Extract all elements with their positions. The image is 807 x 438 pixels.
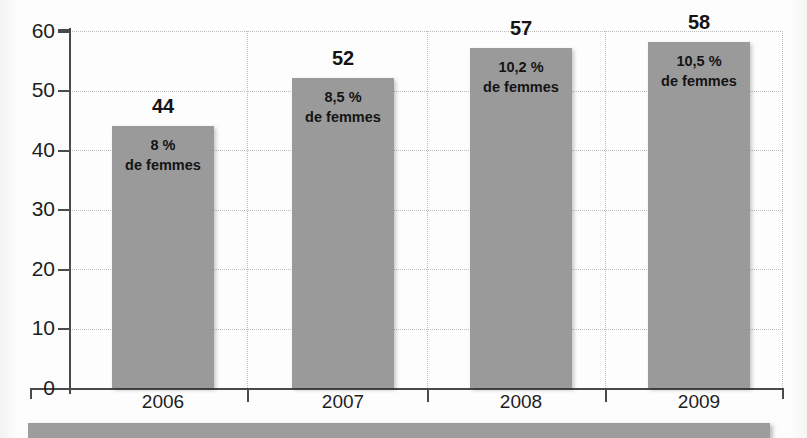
- y-tick-label-60: 60: [9, 20, 55, 41]
- bar-value-2006: 44: [112, 96, 214, 116]
- bar-inner-label-2009: 10,5 % de femmes: [642, 52, 756, 91]
- category-label-2008: 2008: [470, 392, 572, 413]
- y-tick-30: [58, 209, 70, 211]
- x-tick-3: [605, 388, 607, 402]
- bar-inner-label-2006: 8 % de femmes: [106, 136, 220, 175]
- x-axis-right-cap: [782, 388, 784, 399]
- paper-edge-left: [0, 0, 18, 438]
- bar-caption-2009: de femmes: [642, 72, 756, 92]
- gridline-vertical-4: [782, 31, 783, 388]
- y-tick-label-50: 50: [9, 79, 55, 100]
- bar-value-2009: 58: [648, 12, 750, 32]
- gridline-vertical-3: [605, 31, 606, 388]
- bar-caption-2006: de femmes: [106, 156, 220, 176]
- y-tick-20: [58, 269, 70, 271]
- category-label-2007: 2007: [292, 392, 394, 413]
- bar-value-2007: 52: [292, 48, 394, 68]
- y-tick-60: [58, 31, 70, 33]
- bar-percent-2007: 8,5 %: [286, 88, 400, 108]
- y-axis-line: [69, 28, 71, 394]
- bar-percent-2008: 10,2 %: [464, 58, 578, 78]
- y-tick-50: [58, 90, 70, 92]
- gridline-vertical-1: [247, 31, 248, 388]
- y-tick-10: [58, 328, 70, 330]
- y-tick-label-30: 30: [9, 198, 55, 219]
- x-axis-line: [30, 388, 784, 390]
- bar-percent-2006: 8 %: [106, 136, 220, 156]
- bar-value-2008: 57: [470, 18, 572, 38]
- y-tick-0: [58, 388, 70, 390]
- x-tick-2: [427, 388, 429, 402]
- category-label-2009: 2009: [648, 392, 750, 413]
- bar-percent-2009: 10,5 %: [642, 52, 756, 72]
- bar-caption-2007: de femmes: [286, 108, 400, 128]
- gridline-vertical-2: [427, 31, 428, 388]
- category-label-2006: 2006: [112, 392, 214, 413]
- x-tick-1: [247, 388, 249, 402]
- bar-2008: [470, 48, 572, 388]
- y-tick-label-10: 10: [9, 317, 55, 338]
- bar-inner-label-2007: 8,5 % de femmes: [286, 88, 400, 127]
- bar-2009: [648, 42, 750, 388]
- footer-band: [28, 423, 770, 438]
- paper-edge-right: [789, 0, 807, 438]
- bar-inner-label-2008: 10,2 % de femmes: [464, 58, 578, 97]
- y-tick-label-40: 40: [9, 139, 55, 160]
- bar-caption-2008: de femmes: [464, 78, 578, 98]
- y-tick-label-0: 0: [9, 377, 55, 398]
- y-tick-40: [58, 150, 70, 152]
- y-tick-label-20: 20: [9, 258, 55, 279]
- bar-chart: 60 50 40 30 20 10 0 44 8 % de femmes 200…: [0, 0, 807, 438]
